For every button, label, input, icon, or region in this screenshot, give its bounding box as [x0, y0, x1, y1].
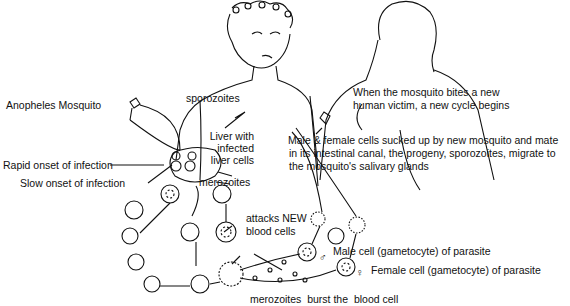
label-merozoites: merozoites: [199, 176, 250, 189]
label-liver-1: Liver with: [207, 130, 254, 143]
label-female-gametocyte: Female cell (gametocyte) of parasite: [371, 264, 541, 277]
label-burst: merozoites burst the blood cell: [250, 293, 398, 306]
label-sucked-up-2: in its intestinal canal, the progeny, sp…: [289, 147, 556, 160]
label-liver-2: infected: [207, 142, 254, 155]
label-sucked-up-3: the mosquito's salivary glands: [289, 160, 429, 173]
mosquito-icon: [130, 98, 140, 120]
label-male-gametocyte: Male cell (gametocyte) of parasite: [333, 245, 491, 258]
label-attacks-2: blood cells: [246, 225, 296, 238]
label-attacks-1: attacks NEW: [246, 212, 307, 225]
female-symbol: ♀: [356, 266, 364, 279]
label-sporozoites: sporozoites: [186, 92, 240, 105]
blood-cycle: [122, 185, 365, 293]
label-rapid-onset: Rapid onset of infection: [3, 159, 113, 172]
male-symbol: ♂: [319, 251, 327, 264]
label-liver-3: liver cells: [199, 154, 254, 167]
label-sucked-up-1: Male & female cells sucked up by new mos…: [288, 134, 558, 147]
label-slow-onset: Slow onset of infection: [20, 177, 125, 190]
label-new-cycle-2: human victim, a new cycle begins: [353, 99, 509, 112]
label-new-cycle-1: When the mosquito bites a new: [353, 86, 500, 99]
label-anopheles-mosquito: Anopheles Mosquito: [6, 99, 101, 112]
